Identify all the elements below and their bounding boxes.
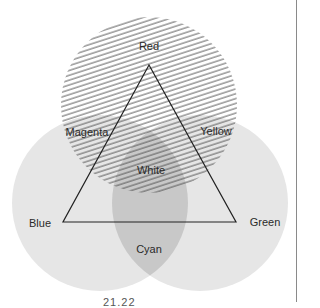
label-magenta: Magenta: [66, 127, 109, 138]
label-green: Green: [250, 217, 281, 228]
label-cyan: Cyan: [136, 244, 162, 255]
label-yellow: Yellow: [200, 126, 231, 137]
label-white: White: [137, 165, 165, 176]
label-red: Red: [139, 41, 159, 52]
figure-caption: 21.22: [103, 296, 136, 308]
page-edge-rule: [296, 0, 297, 302]
label-blue: Blue: [29, 218, 51, 229]
